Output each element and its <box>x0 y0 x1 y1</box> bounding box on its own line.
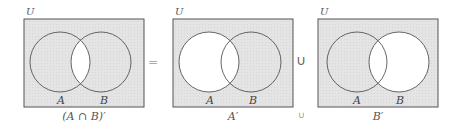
set-a-label: A <box>352 94 361 107</box>
set-a-label: A <box>56 94 65 107</box>
venn-panel-complement-b: U A B B′ <box>314 0 444 130</box>
diagram-caption: B′ <box>318 110 438 123</box>
union-sign: ∪ <box>296 52 306 68</box>
set-b-label: B <box>99 94 108 107</box>
diagram-caption: (A ∩ B)′ <box>24 110 144 123</box>
venn-panel-complement-a: U A B A′ <box>169 0 299 130</box>
set-b-label: B <box>395 94 404 107</box>
equals-sign: = <box>148 55 158 69</box>
venn-panel-complement-intersection: U A B (A ∩ B)′ <box>20 0 150 130</box>
diagram-caption: A′ <box>173 110 293 123</box>
set-a-label: A <box>205 94 214 107</box>
set-b-label: B <box>248 94 257 107</box>
union-sign-small: ∪ <box>298 110 305 120</box>
